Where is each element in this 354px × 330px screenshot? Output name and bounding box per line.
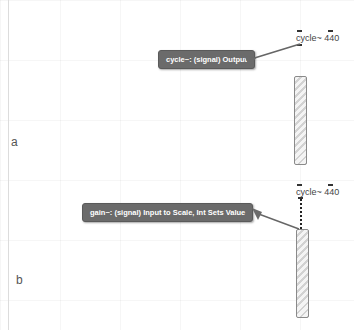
- tooltip-bubble-b: gain~: (signal) Input to Scale, Int Sets…: [82, 203, 253, 222]
- gain-slider-b[interactable]: [296, 229, 309, 318]
- outlet[interactable]: [298, 197, 303, 199]
- tooltip-bubble-a: cycle~: (signal) Output: [158, 50, 255, 69]
- inlet-right[interactable]: [328, 184, 333, 186]
- gain-slider-a[interactable]: [294, 76, 307, 165]
- section-label-b: b: [16, 273, 23, 287]
- canvas-left-border: [8, 0, 9, 330]
- inlet-right[interactable]: [328, 30, 333, 32]
- inlet-left[interactable]: [297, 30, 302, 32]
- section-label-a: a: [11, 135, 18, 149]
- outlet[interactable]: [297, 44, 302, 46]
- inlet-left[interactable]: [297, 184, 302, 186]
- cycle-object-label: cycle~ 440: [296, 33, 339, 44]
